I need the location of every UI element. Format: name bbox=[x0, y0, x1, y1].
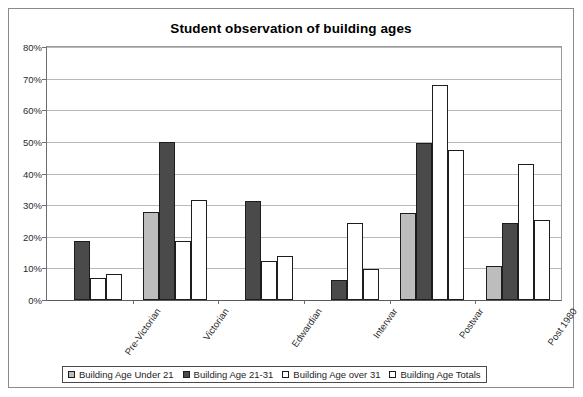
legend-label: Building Age over 31 bbox=[293, 369, 380, 380]
y-axis-tick-label: 50% bbox=[8, 137, 42, 148]
y-axis-tick bbox=[42, 47, 46, 48]
y-axis-tick-label: 10% bbox=[8, 263, 42, 274]
x-axis-tick-label: Postwar bbox=[457, 306, 486, 340]
y-axis-tick-label: 60% bbox=[8, 105, 42, 116]
bar-group bbox=[304, 47, 390, 300]
bar-group bbox=[218, 47, 304, 300]
bar[interactable] bbox=[175, 241, 191, 300]
legend-label: Building Age Totals bbox=[400, 369, 480, 380]
bar-group bbox=[47, 47, 133, 300]
legend-item[interactable]: Building Age Under 21 bbox=[68, 369, 174, 380]
x-axis-tick-label: Victorian bbox=[201, 306, 231, 342]
bar[interactable] bbox=[74, 241, 90, 300]
bar[interactable] bbox=[143, 212, 159, 300]
legend-item[interactable]: Building Age 21-31 bbox=[183, 369, 274, 380]
bar-group bbox=[133, 47, 219, 300]
bar[interactable] bbox=[486, 266, 502, 300]
bar[interactable] bbox=[448, 150, 464, 300]
legend-swatch-icon bbox=[68, 371, 75, 378]
bar[interactable] bbox=[432, 85, 448, 300]
y-axis-tick bbox=[42, 268, 46, 269]
bar[interactable] bbox=[347, 223, 363, 300]
y-axis-tick bbox=[42, 174, 46, 175]
bar[interactable] bbox=[261, 261, 277, 300]
bar[interactable] bbox=[502, 223, 518, 300]
bar[interactable] bbox=[534, 220, 550, 300]
bar[interactable] bbox=[90, 278, 106, 300]
y-axis-tick bbox=[42, 142, 46, 143]
y-axis-tick-label: 70% bbox=[8, 74, 42, 85]
legend-swatch-icon bbox=[389, 371, 396, 378]
bar[interactable] bbox=[191, 200, 207, 300]
bar-group bbox=[390, 47, 476, 300]
y-axis-tick-label: 40% bbox=[8, 169, 42, 180]
legend-label: Building Age Under 21 bbox=[79, 369, 174, 380]
bar[interactable] bbox=[277, 256, 293, 300]
legend-item[interactable]: Building Age over 31 bbox=[282, 369, 380, 380]
bar[interactable] bbox=[159, 142, 175, 300]
legend-label: Building Age 21-31 bbox=[194, 369, 274, 380]
bar[interactable] bbox=[416, 143, 432, 300]
chart-legend: Building Age Under 21Building Age 21-31B… bbox=[62, 366, 487, 383]
x-axis-tick-label: Pre-Victorian bbox=[122, 306, 162, 357]
bar[interactable] bbox=[106, 274, 122, 300]
y-axis-tick-label: 20% bbox=[8, 232, 42, 243]
bar[interactable] bbox=[400, 213, 416, 300]
x-axis-tick-label: Edwardian bbox=[289, 306, 324, 349]
y-axis-tick-label: 80% bbox=[8, 42, 42, 53]
bar[interactable] bbox=[518, 164, 534, 300]
x-axis: Pre-VictorianVictorianEdwardianInterwarP… bbox=[46, 302, 562, 360]
y-axis-tick bbox=[42, 237, 46, 238]
legend-item[interactable]: Building Age Totals bbox=[389, 369, 480, 380]
bar-group bbox=[475, 47, 561, 300]
chart-title: Student observation of building ages bbox=[9, 21, 573, 36]
plot-area bbox=[46, 46, 562, 301]
y-axis: 0%10%20%30%40%50%60%70%80% bbox=[6, 46, 42, 302]
y-axis-tick bbox=[42, 300, 46, 301]
y-axis-tick-label: 0% bbox=[8, 295, 42, 306]
y-axis-tick bbox=[42, 205, 46, 206]
bar[interactable] bbox=[245, 201, 261, 300]
x-axis-tick-label: Interwar bbox=[371, 306, 400, 340]
y-axis-tick-label: 30% bbox=[8, 200, 42, 211]
legend-swatch-icon bbox=[183, 371, 190, 378]
legend-swatch-icon bbox=[282, 371, 289, 378]
y-axis-tick bbox=[42, 110, 46, 111]
y-axis-tick bbox=[42, 79, 46, 80]
bar[interactable] bbox=[331, 280, 347, 300]
bar[interactable] bbox=[363, 269, 379, 300]
